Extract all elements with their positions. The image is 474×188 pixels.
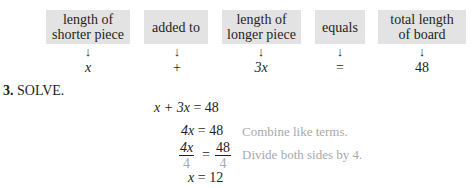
label-box-added-to: added to xyxy=(144,10,208,44)
step-heading: 3. SOLVE. xyxy=(3,83,64,99)
equation-lhs: x xyxy=(188,170,194,185)
label-line: added to xyxy=(152,20,200,35)
value-shorter: x xyxy=(68,60,108,76)
note-divide: Divide both sides by 4. xyxy=(242,147,362,163)
equation-rhs: 48 xyxy=(205,100,219,115)
equation-lhs: x + 3x xyxy=(154,100,190,115)
label-line: shorter piece xyxy=(52,27,124,42)
equation-line-4: x = 12 xyxy=(188,170,223,186)
fraction-denominator: 4 xyxy=(179,156,194,171)
equation-rhs: 12 xyxy=(209,170,223,185)
step-number: 3. xyxy=(3,83,14,98)
equals-sign: = xyxy=(193,100,201,115)
equals-sign: = xyxy=(198,170,206,185)
label-line: longer piece xyxy=(227,27,296,42)
down-arrow-icon: ↓ xyxy=(330,45,350,59)
note-combine: Combine like terms. xyxy=(242,124,348,140)
fraction-lhs: 4x 4 xyxy=(179,140,194,171)
step-title: SOLVE. xyxy=(17,83,64,98)
fraction-rhs: 48 4 xyxy=(215,140,231,171)
label-line: of board xyxy=(390,27,453,42)
down-arrow-icon: ↓ xyxy=(167,45,187,59)
label-box-longer-piece: length oflonger piece xyxy=(222,10,301,44)
label-box-shorter-piece: length ofshorter piece xyxy=(46,10,130,44)
label-box-equals: equals xyxy=(315,10,365,44)
label-line: equals xyxy=(322,20,358,35)
down-arrow-icon: ↓ xyxy=(78,45,98,59)
label-line: length of xyxy=(52,12,124,27)
equation-line-2: 4x = 48 xyxy=(181,123,223,139)
label-line: total length xyxy=(390,12,453,27)
equation-lhs: 4x xyxy=(181,123,194,138)
value-plus: + xyxy=(157,60,197,76)
fraction-numerator: 4x xyxy=(179,140,194,156)
label-line: length of xyxy=(227,12,296,27)
equals-sign: = xyxy=(202,147,210,163)
equation-rhs: 48 xyxy=(209,123,223,138)
value-longer: 3x xyxy=(241,60,281,76)
fraction-numerator: 48 xyxy=(215,140,231,156)
equals-sign: = xyxy=(198,123,206,138)
down-arrow-icon: ↓ xyxy=(251,45,271,59)
down-arrow-icon: ↓ xyxy=(412,45,432,59)
value-total: 48 xyxy=(402,60,442,76)
fraction-denominator: 4 xyxy=(215,156,231,171)
label-box-total-length: total lengthof board xyxy=(378,10,466,44)
value-equals: = xyxy=(320,60,360,76)
equation-line-1: x + 3x = 48 xyxy=(154,100,219,116)
